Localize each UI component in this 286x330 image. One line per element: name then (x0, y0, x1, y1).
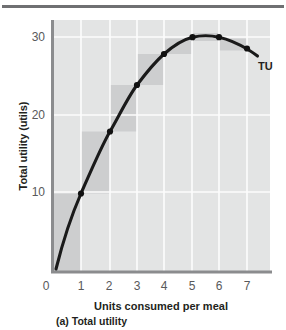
figure-caption: (a) Total utility (56, 315, 127, 327)
x-axis-title: Units consumed per meal (52, 300, 270, 312)
ytick-label-20: 20 (32, 108, 46, 122)
xtick-label-6: 6 (216, 279, 223, 293)
xtick-label-7: 7 (244, 279, 251, 293)
tu-curve-label: TU (258, 60, 273, 72)
data-point-2 (107, 128, 113, 134)
data-point-7 (244, 45, 250, 51)
data-point-4 (161, 51, 167, 57)
data-point-1 (78, 190, 84, 196)
ytick-label-30: 30 (32, 30, 46, 44)
data-point-5 (189, 34, 195, 40)
chart-canvas: 30 20 10 0 1 2 3 4 5 6 7 TU (0, 0, 286, 330)
xtick-label-2: 2 (106, 279, 113, 293)
data-point-3 (134, 82, 140, 88)
figure-total-utility: 30 20 10 0 1 2 3 4 5 6 7 TU Total utilit… (0, 0, 286, 330)
total-utility-chart: 30 20 10 0 1 2 3 4 5 6 7 TU (0, 0, 286, 330)
xtick-label-0: 0 (43, 279, 50, 293)
ytick-label-10: 10 (32, 185, 46, 199)
xtick-label-3: 3 (134, 279, 141, 293)
y-axis-title: Total utility (utils) (17, 71, 29, 221)
data-point-6 (216, 34, 222, 40)
xtick-label-4: 4 (161, 279, 168, 293)
xtick-label-5: 5 (189, 279, 196, 293)
xtick-label-1: 1 (78, 279, 85, 293)
